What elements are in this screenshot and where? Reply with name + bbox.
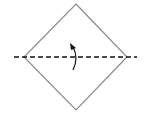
- origami-diagram: [0, 0, 145, 119]
- diagram-svg: [0, 0, 145, 119]
